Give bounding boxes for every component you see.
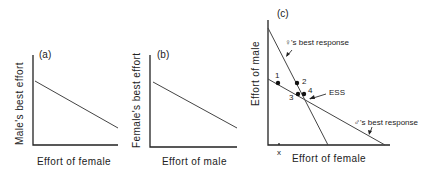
panel-a-ylabel: Male's best effort: [14, 62, 25, 145]
panel-c-tag: (c): [277, 8, 289, 19]
female-response-label: ♀'s best response: [285, 38, 350, 47]
panel-a-axes: [33, 55, 118, 145]
point-4: [302, 92, 306, 96]
panel-a-xlabel: Effort of female: [37, 156, 111, 167]
male-best-effort-line: [35, 81, 118, 128]
point-2-label: 2: [302, 77, 307, 86]
male-best-response-line: [268, 79, 385, 145]
ess-label: ESS: [329, 88, 345, 97]
panel-b-axes: [150, 55, 237, 147]
panel-c-xlabel: Effort of female: [292, 153, 366, 164]
ess-arrowhead: [309, 95, 315, 99]
male-response-label: ♂'s best response: [354, 118, 419, 127]
panel-c: (c) Effort of male Effort of female x 1 …: [250, 8, 419, 164]
point-3: [296, 92, 300, 96]
panel-a-tag: (a): [39, 49, 51, 60]
female-best-effort-line: [153, 82, 237, 128]
panel-b-xlabel: Effort of male: [162, 156, 227, 167]
figure: (a) Male's best effort Effort of female …: [0, 0, 447, 171]
panel-b: (b) Female's best effort Effort of male: [131, 49, 237, 167]
point-1: [276, 81, 280, 85]
panel-b-tag: (b): [157, 49, 169, 60]
point-3-label: 3: [289, 93, 294, 102]
panel-c-ylabel: Effort of male: [250, 41, 261, 106]
x-tick-label: x: [277, 148, 281, 157]
point-2: [295, 81, 299, 85]
panel-b-ylabel: Female's best effort: [131, 53, 142, 148]
male-response-arrowhead: [368, 130, 372, 135]
point-4-label: 4: [308, 86, 313, 95]
panel-a: (a) Male's best effort Effort of female: [14, 49, 118, 167]
point-1-label: 1: [275, 71, 280, 80]
